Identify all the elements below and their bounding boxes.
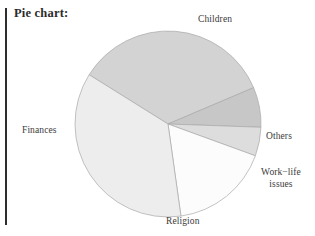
pie-slices-group xyxy=(75,31,261,217)
pie-label-work-life-line1: Work−life xyxy=(261,167,301,177)
pie-label-children: Children xyxy=(198,14,232,26)
pie-label-work-life-line2: issues xyxy=(269,179,292,189)
pie-chart-svg xyxy=(0,0,315,236)
pie-label-others: Others xyxy=(266,131,292,143)
pie-label-work-life-issues: Work−life issues xyxy=(252,167,310,190)
pie-label-finances: Finances xyxy=(22,125,57,137)
pie-label-religion: Religion xyxy=(166,216,200,228)
pie-chart: Children Others Work−life issues Religio… xyxy=(0,0,315,236)
